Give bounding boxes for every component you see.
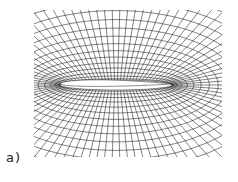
airfoil-mesh-diagram <box>0 0 238 182</box>
subfigure-label: a) <box>6 150 21 165</box>
